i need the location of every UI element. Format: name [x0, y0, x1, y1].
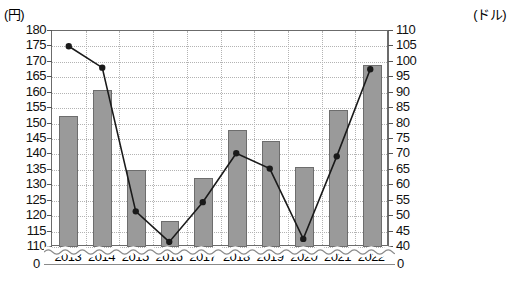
right-axis-tick-label: 90	[396, 85, 442, 98]
chart-container: (円) (ドル) 1801751701651601551501451401351…	[0, 0, 510, 293]
gridline-horizontal	[52, 247, 387, 248]
right-axis-tickmark	[388, 169, 393, 170]
left-axis-tick-label: 160	[0, 85, 46, 98]
right-axis-tickmark	[388, 92, 393, 93]
right-axis-tickmark	[388, 246, 393, 247]
right-axis-tickmark	[388, 123, 393, 124]
right-axis-tick-label: 75	[396, 131, 442, 144]
right-axis-tick-label: 85	[396, 100, 442, 113]
left-axis-tick-label: 135	[0, 162, 46, 175]
left-axis-zero-label: 0	[33, 257, 40, 270]
left-axis-tickmark	[47, 123, 52, 124]
right-axis-tick-label: 80	[396, 116, 442, 129]
right-axis-zero-label: 0	[397, 257, 404, 270]
left-axis-tickmark	[47, 231, 52, 232]
line-data-point	[367, 66, 373, 72]
right-axis-unit-label: (ドル)	[473, 4, 506, 23]
left-axis-tickmark	[47, 246, 52, 247]
left-axis-tick-label: 150	[0, 116, 46, 129]
left-axis-tickmark	[47, 30, 52, 31]
line-data-point	[200, 199, 206, 205]
line-data-point	[66, 43, 72, 49]
right-axis-tickmark	[388, 138, 393, 139]
line-data-point	[334, 153, 340, 159]
left-axis-tick-label: 110	[0, 239, 46, 252]
left-axis-tick-label: 170	[0, 54, 46, 67]
right-axis-tickmark	[388, 153, 393, 154]
left-axis-tick-label: 175	[0, 38, 46, 51]
right-axis-tickmark	[388, 61, 393, 62]
left-axis-tickmark	[47, 61, 52, 62]
left-axis-tickmark	[47, 45, 52, 46]
right-axis-tick-label: 60	[396, 177, 442, 190]
right-axis-tick-label: 65	[396, 162, 442, 175]
line-data-point	[300, 236, 306, 242]
left-axis-tickmark	[47, 200, 52, 201]
right-axis-tickmark	[388, 76, 393, 77]
line-path	[69, 46, 371, 242]
right-axis-tick-label: 95	[396, 69, 442, 82]
right-axis-tickmark	[388, 200, 393, 201]
right-axis-tickmark	[388, 231, 393, 232]
left-axis-tick-label: 120	[0, 208, 46, 221]
left-axis-tick-label: 140	[0, 146, 46, 159]
left-axis-tickmark	[47, 153, 52, 154]
left-axis-unit-label: (円)	[4, 4, 24, 23]
right-axis-tick-label: 70	[396, 146, 442, 159]
right-axis-tickmark	[388, 45, 393, 46]
left-axis-tick-label: 130	[0, 177, 46, 190]
x-axis-tick-label: 2022	[347, 250, 395, 264]
line-series-layer	[52, 31, 387, 245]
left-axis-tick-label: 145	[0, 131, 46, 144]
right-axis-tick-label: 45	[396, 224, 442, 237]
right-axis-tickmark	[388, 107, 393, 108]
right-axis-tick-label: 105	[396, 38, 442, 51]
right-axis-tick-label: 40	[396, 239, 442, 252]
left-axis-tickmark	[47, 76, 52, 77]
right-axis-tickmark	[388, 184, 393, 185]
right-axis-tickmark	[388, 30, 393, 31]
line-data-point	[99, 65, 105, 71]
left-axis-tickmark	[47, 138, 52, 139]
right-axis-tick-label: 50	[396, 208, 442, 221]
left-axis-tick-label: 115	[0, 224, 46, 237]
line-data-point	[267, 165, 273, 171]
right-axis-tickmark	[388, 215, 393, 216]
baseline-axis	[44, 264, 395, 265]
left-axis-tick-label: 155	[0, 100, 46, 113]
left-axis-tickmark	[47, 92, 52, 93]
left-axis-tickmark	[47, 169, 52, 170]
right-axis-tick-label: 55	[396, 193, 442, 206]
left-axis-tick-label: 180	[0, 23, 46, 36]
right-axis-tick-label: 110	[396, 23, 442, 36]
left-axis-tickmark	[47, 107, 52, 108]
left-axis-tick-label: 165	[0, 69, 46, 82]
plot-area	[51, 30, 388, 246]
line-data-point	[166, 239, 172, 245]
line-data-point	[233, 150, 239, 156]
right-axis-tick-label: 100	[396, 54, 442, 67]
left-axis-tickmark	[47, 215, 52, 216]
left-axis-tick-label: 125	[0, 193, 46, 206]
line-data-point	[133, 208, 139, 214]
left-axis-tickmark	[47, 184, 52, 185]
